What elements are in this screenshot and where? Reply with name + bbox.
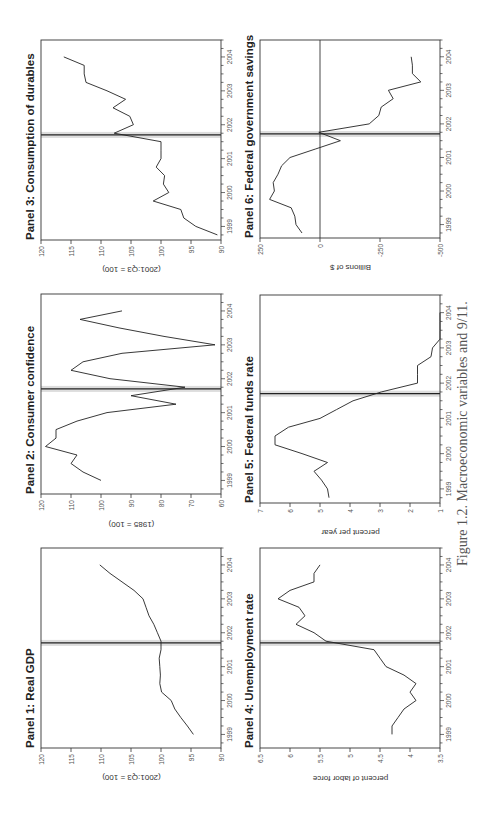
x-tick-label: 2004 (226, 303, 233, 318)
x-tick-label: 1999 (445, 727, 452, 742)
y-tick-label: 4.5 (377, 754, 384, 763)
x-tick-label: 2000 (226, 185, 233, 200)
x-tick-label: 2002 (445, 116, 452, 131)
plot-frame (260, 295, 440, 503)
y-tick-label: 2 (407, 509, 414, 513)
panel2-y-axis-label: (1985 = 100) (108, 520, 154, 529)
x-tick-label: 2004 (226, 557, 233, 572)
x-tick-label: 2002 (445, 376, 452, 391)
panel2-title: Panel 2: Consumer confidence (24, 326, 36, 494)
y-tick-label: 120 (38, 246, 45, 257)
x-tick-label: 1999 (226, 473, 233, 488)
panel6-y-axis-label: Billions of $ (330, 264, 371, 273)
y-tick-label: 70 (188, 500, 195, 508)
plot-frame (41, 548, 221, 748)
x-tick-label: 2003 (226, 591, 233, 606)
x-tick-label: 2002 (226, 371, 233, 386)
y-tick-label: -250 (377, 244, 384, 257)
x-tick-label: 2000 (445, 183, 452, 198)
y-tick-label: 250 (257, 244, 264, 255)
x-tick-label: 2001 (226, 659, 233, 674)
x-tick-label: 2003 (226, 83, 233, 98)
y-tick-label: -500 (437, 244, 444, 257)
x-tick-label: 2004 (226, 49, 233, 64)
data-line (278, 565, 416, 735)
y-tick-label: 115 (68, 754, 75, 765)
x-tick-label: 2000 (226, 693, 233, 708)
y-tick-label: 80 (158, 500, 165, 508)
data-line (100, 565, 194, 735)
x-tick-label: 1999 (226, 727, 233, 742)
x-tick-label: 2000 (445, 446, 452, 461)
y-tick-label: 4 (347, 509, 354, 513)
y-tick-label: 5 (347, 754, 354, 758)
x-tick-label: 2002 (445, 625, 452, 640)
x-tick-label: 2004 (445, 49, 452, 64)
plot-frame (260, 40, 440, 238)
y-tick-label: 1 (437, 509, 444, 513)
plot-frame (260, 548, 440, 748)
y-tick-label: 5.5 (317, 754, 324, 763)
y-tick-label: 90 (218, 754, 225, 762)
x-tick-label: 2004 (445, 305, 452, 320)
x-tick-label: 2000 (445, 693, 452, 708)
y-tick-label: 100 (158, 246, 165, 257)
panel1-title: Panel 1: Real GDP (24, 648, 36, 748)
y-tick-label: 0 (317, 244, 324, 248)
panel1-y-axis-label: (2001:Q3 = 100) (102, 773, 160, 782)
panel3-chart: 9095100105110115120199920002001200220032… (41, 40, 221, 240)
y-tick-label: 100 (98, 500, 105, 511)
y-tick-label: 120 (38, 500, 45, 511)
y-tick-label: 3.5 (437, 754, 444, 763)
data-line (64, 57, 218, 235)
x-tick-label: 2000 (226, 439, 233, 454)
y-tick-label: 3 (377, 509, 384, 513)
x-tick-label: 2003 (445, 83, 452, 98)
panel3-title: Panel 3: Consumption of durables (24, 53, 36, 240)
y-tick-label: 4 (407, 754, 414, 758)
panel1-chart: 9095100105110115120199920002001200220032… (41, 548, 221, 748)
data-line (275, 313, 440, 498)
data-line (46, 311, 216, 481)
plot-frame (41, 294, 221, 494)
x-tick-label: 2001 (445, 150, 452, 165)
figure: 9095100105110115120199920002001200220032… (0, 0, 489, 821)
y-tick-label: 7 (257, 509, 264, 513)
panel5-chart: 1234567199920002001200220032004Panel 5: … (260, 295, 440, 503)
panel4-title: Panel 4: Unemployment rate (243, 593, 255, 748)
x-tick-label: 2004 (445, 557, 452, 572)
panel3-y-axis-label: (2001:Q3 = 100) (102, 265, 160, 274)
panel4-chart: 3.544.555.566.5199920002001200220032004P… (260, 548, 440, 748)
x-tick-label: 2003 (445, 340, 452, 355)
y-tick-label: 95 (188, 246, 195, 254)
y-tick-label: 105 (128, 246, 135, 257)
y-tick-label: 110 (98, 754, 105, 765)
panel5-y-axis-label: percent per year (321, 528, 379, 537)
x-tick-label: 2001 (226, 405, 233, 420)
x-tick-label: 2002 (226, 625, 233, 640)
x-tick-label: 2001 (226, 151, 233, 166)
y-tick-label: 90 (218, 246, 225, 254)
y-tick-label: 100 (158, 754, 165, 765)
y-tick-label: 110 (68, 500, 75, 511)
y-tick-label: 110 (98, 246, 105, 257)
y-tick-label: 6 (287, 754, 294, 758)
x-tick-label: 2001 (445, 411, 452, 426)
x-tick-label: 2001 (445, 659, 452, 674)
x-tick-label: 2002 (226, 117, 233, 132)
x-tick-label: 1999 (445, 217, 452, 232)
y-tick-label: 60 (218, 500, 225, 508)
plot-frame (41, 40, 221, 240)
y-tick-label: 90 (128, 500, 135, 508)
y-tick-label: 105 (128, 754, 135, 765)
x-tick-label: 2003 (445, 591, 452, 606)
y-tick-label: 6 (287, 509, 294, 513)
panel2-chart: 6070809010011012019992000200120022003200… (41, 294, 221, 494)
x-tick-label: 1999 (445, 481, 452, 496)
x-tick-label: 1999 (226, 219, 233, 234)
panel6-title: Panel 6: Federal government savings (243, 35, 255, 238)
panel6-chart: -500-2500250199920002001200220032004Pane… (260, 40, 440, 238)
y-tick-label: 95 (188, 754, 195, 762)
x-tick-label: 2003 (226, 337, 233, 352)
y-tick-label: 115 (68, 246, 75, 257)
